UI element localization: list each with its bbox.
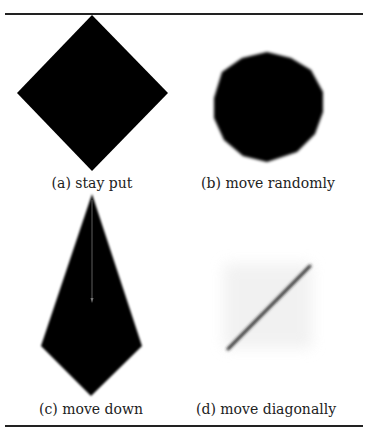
figure-canvas [0, 0, 367, 431]
caption-d: (d) move diagonally [196, 401, 336, 417]
panel-a-diamond [17, 15, 168, 171]
panel-c-kite [41, 194, 142, 396]
bottom-rule [5, 425, 363, 427]
caption-b: (b) move randomly [200, 175, 336, 191]
panel-d-streak [224, 264, 312, 349]
panel-b-octagon [214, 52, 323, 162]
caption-c: (c) move down [38, 401, 144, 417]
caption-a: (a) stay put [48, 175, 136, 191]
